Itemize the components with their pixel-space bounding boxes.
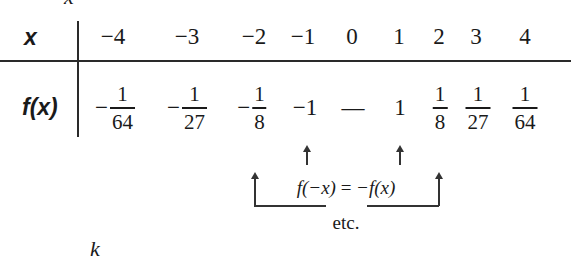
clipped-top-letter: x (64, 0, 74, 10)
x-value: −1 (291, 24, 315, 50)
table-vertical-rule (77, 21, 79, 137)
bracket-line-left (254, 205, 326, 207)
up-arrow-icon (438, 177, 440, 206)
fx-value: — (342, 82, 365, 134)
bracket-line-right (367, 205, 439, 207)
x-value: −2 (242, 24, 266, 50)
fx-value: 18 (433, 82, 448, 134)
x-value: 4 (519, 24, 531, 50)
fraction: 127 (466, 83, 491, 133)
fx-value: − 18 (237, 82, 266, 134)
etc-note: etc. (333, 212, 360, 234)
up-arrow-icon (306, 150, 308, 165)
fx-value: − 127 (167, 82, 207, 134)
odd-function-equation: f(−x) = −f(x) (297, 177, 396, 199)
table-horizontal-rule (0, 60, 571, 62)
fx-value: 1 (394, 82, 406, 134)
x-value: 1 (393, 24, 405, 50)
x-value: −3 (175, 24, 199, 50)
up-arrow-icon (254, 177, 256, 206)
fx-value: − 164 (95, 82, 135, 134)
fraction: 18 (252, 83, 267, 133)
fx-value: 164 (513, 82, 538, 134)
x-value: 3 (470, 24, 482, 50)
fraction: 127 (182, 83, 207, 133)
row-header-x: x (24, 24, 37, 51)
x-value: 2 (433, 24, 445, 50)
fraction: 164 (110, 83, 135, 133)
fx-value: 127 (466, 82, 491, 134)
minus-sign: − (167, 95, 180, 121)
clipped-bottom-letter: k (90, 236, 100, 260)
x-value: −4 (101, 24, 125, 50)
minus-sign: − (95, 95, 108, 121)
up-arrow-icon (399, 150, 401, 165)
fx-value: −1 (293, 82, 317, 134)
fraction: 164 (513, 83, 538, 133)
x-value: 0 (346, 24, 358, 50)
fraction: 18 (433, 83, 448, 133)
row-header-fx: f(x) (22, 94, 58, 121)
minus-sign: − (237, 95, 250, 121)
